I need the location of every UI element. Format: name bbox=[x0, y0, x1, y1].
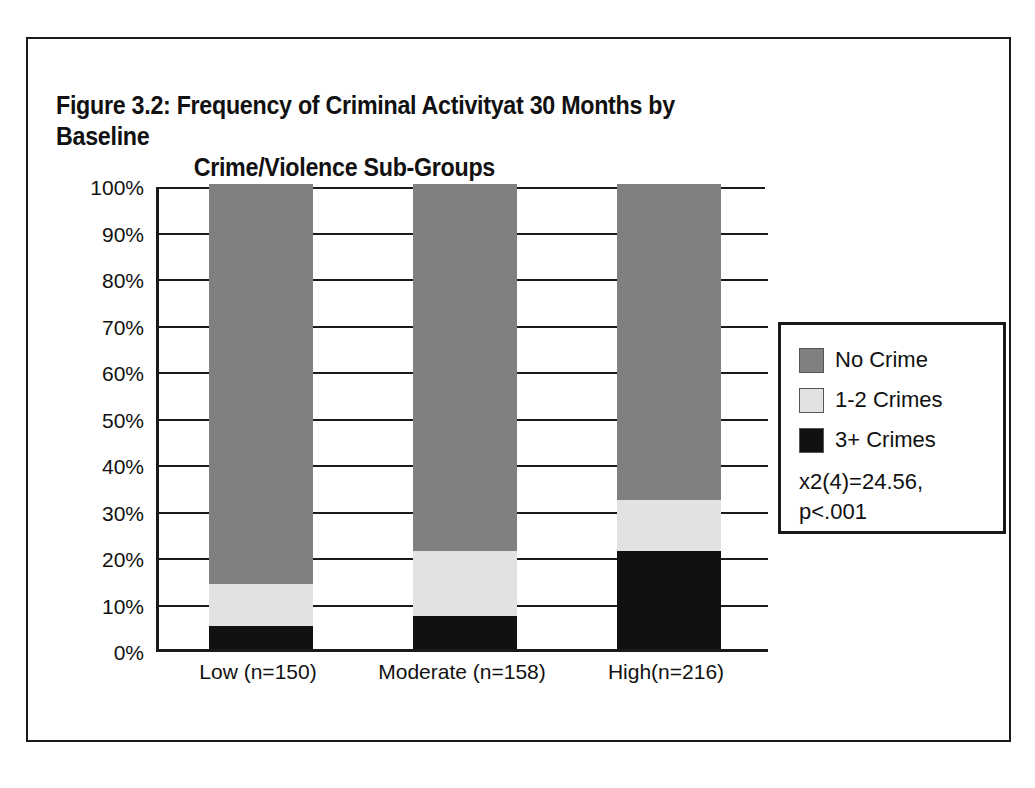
legend-items: No Crime1-2 Crimes3+ Crimes bbox=[799, 341, 1003, 459]
y-axis-tick-label: 0% bbox=[114, 642, 144, 663]
y-axis-tick-label: 30% bbox=[102, 502, 144, 523]
y-axis-tick-label: 50% bbox=[102, 409, 144, 430]
bar-stack bbox=[209, 184, 313, 649]
figure-frame: Figure 3.2: Frequency of Criminal Activi… bbox=[26, 37, 1011, 742]
bar-stack bbox=[617, 184, 721, 649]
y-axis-tick-label: 70% bbox=[102, 316, 144, 337]
y-axis-tick-label: 20% bbox=[102, 549, 144, 570]
bar-group[interactable] bbox=[209, 184, 313, 649]
legend-stat-p-value: p<.001 bbox=[799, 497, 1003, 527]
bar-segment-3-crimes[interactable] bbox=[617, 551, 721, 649]
chart-plot-wrapper: 0%10%20%30%40%50%60%70%80%90%100% Low (n… bbox=[78, 187, 768, 707]
title-line-2: Crime/Violence Sub-Groups bbox=[56, 152, 726, 183]
bar-group[interactable] bbox=[413, 184, 517, 649]
y-axis: 0%10%20%30%40%50%60%70%80%90%100% bbox=[78, 187, 150, 652]
legend-item-label: 1-2 Crimes bbox=[835, 388, 943, 412]
chart-legend: No Crime1-2 Crimes3+ Crimes x2(4)=24.56,… bbox=[778, 322, 1006, 534]
y-axis-tick-label: 60% bbox=[102, 363, 144, 384]
legend-swatch-no-crime bbox=[799, 348, 824, 373]
plot-area bbox=[156, 187, 768, 652]
legend-stat-chi-square: x2(4)=24.56, bbox=[799, 467, 1003, 497]
y-axis-tick-label: 40% bbox=[102, 456, 144, 477]
legend-item-label: 3+ Crimes bbox=[835, 428, 936, 452]
bar-stack bbox=[413, 184, 517, 649]
legend-swatch-3plus-crimes bbox=[799, 428, 824, 453]
legend-item[interactable]: No Crime bbox=[799, 341, 1003, 379]
y-axis-tick-label: 80% bbox=[102, 270, 144, 291]
legend-statistics: x2(4)=24.56, p<.001 bbox=[799, 467, 1003, 527]
bar-segment-3-crimes[interactable] bbox=[209, 626, 313, 649]
legend-item[interactable]: 1-2 Crimes bbox=[799, 381, 1003, 419]
x-axis-tick-label: Moderate (n=158) bbox=[378, 659, 546, 685]
bars-layer bbox=[159, 187, 768, 649]
bar-segment-1-2-crimes[interactable] bbox=[413, 551, 517, 616]
bar-segment-1-2-crimes[interactable] bbox=[209, 584, 313, 626]
title-line-1: Figure 3.2: Frequency of Criminal Activi… bbox=[56, 91, 675, 150]
bar-segment-no-crime[interactable] bbox=[209, 184, 313, 584]
y-axis-tick-label: 90% bbox=[102, 223, 144, 244]
legend-item[interactable]: 3+ Crimes bbox=[799, 421, 1003, 459]
y-axis-tick-label: 10% bbox=[102, 595, 144, 616]
x-axis: Low (n=150)Moderate (n=158)High(n=216) bbox=[156, 659, 768, 693]
legend-swatch-1-2-crimes bbox=[799, 388, 824, 413]
bar-segment-1-2-crimes[interactable] bbox=[617, 500, 721, 551]
bar-segment-no-crime[interactable] bbox=[617, 184, 721, 500]
x-axis-tick-label: Low (n=150) bbox=[199, 659, 316, 685]
legend-item-label: No Crime bbox=[835, 348, 928, 372]
y-axis-tick-label: 100% bbox=[90, 177, 144, 198]
bar-group[interactable] bbox=[617, 184, 721, 649]
bar-segment-3-crimes[interactable] bbox=[413, 616, 517, 649]
x-axis-tick-label: High(n=216) bbox=[608, 659, 724, 685]
bar-segment-no-crime[interactable] bbox=[413, 184, 517, 551]
